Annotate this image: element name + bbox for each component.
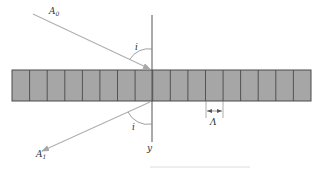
reflected-angle-label: i (132, 122, 135, 132)
grating-diffraction-diagram: y A0 i A1 i Λ (0, 0, 318, 170)
grating-band (12, 70, 311, 101)
incident-ray-arrow (33, 14, 150, 69)
incident-angle-arc (130, 49, 152, 59)
figure-caption (150, 166, 250, 168)
axis-label-y: y (146, 143, 153, 153)
incident-angle-label: i (135, 42, 138, 52)
reflected-ray-label: A1 (35, 149, 46, 160)
incident-ray-label: A0 (48, 6, 60, 17)
period-dimension: Λ (206, 101, 223, 127)
period-label: Λ (209, 117, 217, 127)
